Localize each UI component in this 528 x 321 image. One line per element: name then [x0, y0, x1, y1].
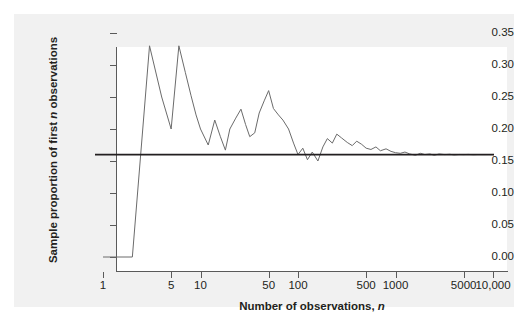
y-tick-mark — [110, 129, 117, 130]
x-tick-label: 10 — [194, 280, 207, 292]
y-axis-title: Sample proportion of first n observation… — [47, 25, 59, 275]
x-tick-label: 10,000 — [475, 280, 510, 292]
y-tick-label: 0.00 — [470, 251, 514, 263]
x-axis-title: Number of observations, n — [117, 300, 507, 312]
x-tick-mark — [493, 272, 494, 278]
x-tick-label: 1 — [100, 280, 106, 292]
x-tick-label: 5 — [168, 280, 174, 292]
y-tick-mark — [110, 161, 117, 162]
y-tick-label: 0.10 — [470, 187, 514, 199]
y-tick-mark — [110, 33, 117, 34]
y-axis-line — [116, 47, 117, 272]
y-tick-mark — [110, 257, 117, 258]
plot-area — [117, 47, 507, 271]
y-tick-label: 0.30 — [470, 59, 514, 71]
y-tick-label: 0.05 — [470, 219, 514, 231]
y-tick-label: 0.15 — [470, 155, 514, 167]
x-tick-label: 50 — [262, 280, 275, 292]
chart-panel: 0.000.050.100.150.200.250.300.35 1510501… — [14, 14, 514, 307]
x-tick-mark — [171, 272, 172, 278]
x-tick-label: 5000 — [451, 280, 477, 292]
y-tick-label: 0.25 — [470, 91, 514, 103]
x-tick-label: 100 — [288, 280, 307, 292]
x-tick-mark — [464, 272, 465, 278]
y-tick-mark — [110, 97, 117, 98]
x-tick-mark — [201, 272, 202, 278]
x-tick-mark — [269, 272, 270, 278]
y-tick-mark — [110, 65, 117, 66]
x-tick-mark — [103, 272, 104, 278]
x-tick-mark — [366, 272, 367, 278]
x-tick-label: 500 — [357, 280, 376, 292]
y-tick-label: 0.20 — [470, 123, 514, 135]
y-tick-mark — [110, 193, 117, 194]
y-tick-mark — [110, 225, 117, 226]
x-tick-label: 1000 — [383, 280, 409, 292]
x-tick-mark — [298, 272, 299, 278]
y-tick-label: 0.35 — [470, 27, 514, 39]
figure-root: 0.000.050.100.150.200.250.300.35 1510501… — [0, 0, 528, 321]
x-axis-line — [116, 271, 508, 272]
x-tick-mark — [396, 272, 397, 278]
